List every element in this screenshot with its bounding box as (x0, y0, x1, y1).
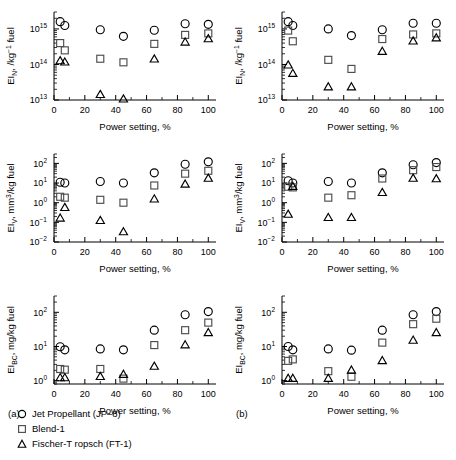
data-point-triangle (409, 174, 417, 181)
x-tick-label: 80 (172, 389, 182, 399)
x-tick-label: 100 (429, 389, 444, 399)
data-point-square (151, 40, 158, 47)
axis-lines (54, 154, 216, 242)
data-point-circle (181, 160, 189, 168)
data-point-square (348, 192, 355, 199)
data-point-triangle (378, 188, 386, 195)
data-point-triangle (181, 180, 189, 187)
data-point-triangle (150, 195, 158, 202)
data-point-square (97, 55, 104, 62)
data-point-square (97, 196, 104, 203)
x-tick-label: 100 (429, 247, 444, 257)
chart-svg-b-bot: 100101102020406080100Power setting, %EIB… (228, 284, 456, 424)
x-tick-label: 20 (308, 247, 318, 257)
x-tick-label: 100 (201, 389, 216, 399)
data-point-square (57, 40, 64, 47)
data-point-circle (119, 179, 127, 187)
data-point-triangle (150, 362, 158, 369)
x-tick-label: 20 (80, 105, 90, 115)
x-tick-label: 0 (279, 105, 284, 115)
y-tick-label: 10−1 (258, 216, 276, 228)
y-tick-label: 1014 (30, 58, 48, 70)
x-tick-label: 40 (111, 247, 121, 257)
x-tick-label: 20 (80, 247, 90, 257)
data-point-circle (378, 169, 386, 177)
data-point-circle (432, 308, 440, 316)
y-tick-label: 101 (33, 340, 47, 352)
y-tick-label: 1013 (258, 93, 276, 105)
x-axis-title: Power setting, % (327, 263, 399, 274)
data-point-square (120, 199, 127, 206)
data-point-circle (204, 308, 212, 316)
x-tick-label: 0 (51, 247, 56, 257)
data-point-square (379, 36, 386, 43)
legend-label-jp8: Jet Propellant (JP–8) (32, 408, 121, 419)
data-point-square (205, 319, 212, 326)
x-tick-label: 0 (51, 105, 56, 115)
data-point-triangle (204, 35, 212, 42)
y-tick-label: 1015 (30, 22, 48, 34)
data-point-circle (347, 179, 355, 187)
x-tick-label: 20 (308, 105, 318, 115)
y-tick-label: 1014 (258, 58, 276, 70)
data-point-circle (119, 32, 127, 40)
x-tick-label: 80 (400, 105, 410, 115)
data-point-triangle (204, 174, 212, 181)
x-tick-label: 20 (80, 389, 90, 399)
data-point-circle (150, 326, 158, 334)
data-point-triangle (432, 328, 440, 335)
data-point-circle (204, 158, 212, 166)
data-point-circle (432, 19, 440, 27)
y-tick-label: 10−2 (30, 235, 48, 247)
axis-lines (54, 12, 216, 100)
x-tick-label: 80 (172, 247, 182, 257)
y-axis-title: EIN, /kg−1 fuel (233, 27, 246, 85)
chart-svg-a-top: 101310141015020406080100Power setting, %… (0, 0, 228, 140)
data-point-triangle (347, 213, 355, 220)
x-tick-label: 40 (339, 105, 349, 115)
circle-marker-icon (12, 408, 32, 420)
x-tick-label: 0 (279, 389, 284, 399)
x-tick-label: 100 (201, 247, 216, 257)
x-axis-title: Power setting, % (99, 263, 171, 274)
legend-item: Blend-1 (12, 421, 232, 436)
chart-panel-a-top: 101310141015020406080100Power setting, %… (0, 0, 228, 140)
y-tick-label: 101 (261, 176, 275, 188)
data-point-circle (119, 346, 127, 354)
data-point-circle (324, 177, 332, 185)
x-tick-label: 40 (339, 247, 349, 257)
data-point-circle (324, 25, 332, 33)
x-tick-label: 20 (308, 389, 318, 399)
y-tick-label: 1015 (258, 22, 276, 34)
data-point-circle (432, 159, 440, 167)
data-point-triangle (409, 336, 417, 343)
chart-panel-b-mid: 10−210−1100101102020406080100Power setti… (228, 142, 456, 282)
y-axis-title: EIBC, mg/kg fuel (233, 306, 246, 374)
y-tick-label: 101 (33, 176, 47, 188)
data-point-square (285, 27, 292, 34)
x-axis-title: Power setting, % (327, 121, 399, 132)
data-point-triangle (181, 38, 189, 45)
axis-lines (282, 12, 444, 100)
data-point-triangle (61, 203, 69, 210)
legend-item: Jet Propellant (JP–8) (12, 406, 232, 421)
data-point-triangle (378, 356, 386, 363)
x-tick-label: 60 (142, 105, 152, 115)
axis-lines (282, 154, 444, 242)
legend-label-ft1: Fischer-T ropsch (FT-1) (32, 438, 132, 449)
data-point-square (151, 182, 158, 189)
data-point-circle (324, 345, 332, 353)
x-tick-label: 0 (51, 389, 56, 399)
data-point-circle (347, 32, 355, 40)
data-point-circle (150, 169, 158, 177)
y-tick-label: 102 (33, 157, 47, 169)
data-point-triangle (119, 228, 127, 235)
data-point-triangle (378, 47, 386, 54)
legend-label-blend1: Blend-1 (32, 423, 65, 434)
x-tick-label: 40 (339, 389, 349, 399)
data-point-circle (378, 326, 386, 334)
data-point-triangle (324, 374, 332, 381)
y-tick-label: 100 (261, 196, 275, 208)
y-axis-title: EIV, mm3/kg fuel (5, 163, 18, 232)
square-marker-icon (12, 423, 32, 435)
